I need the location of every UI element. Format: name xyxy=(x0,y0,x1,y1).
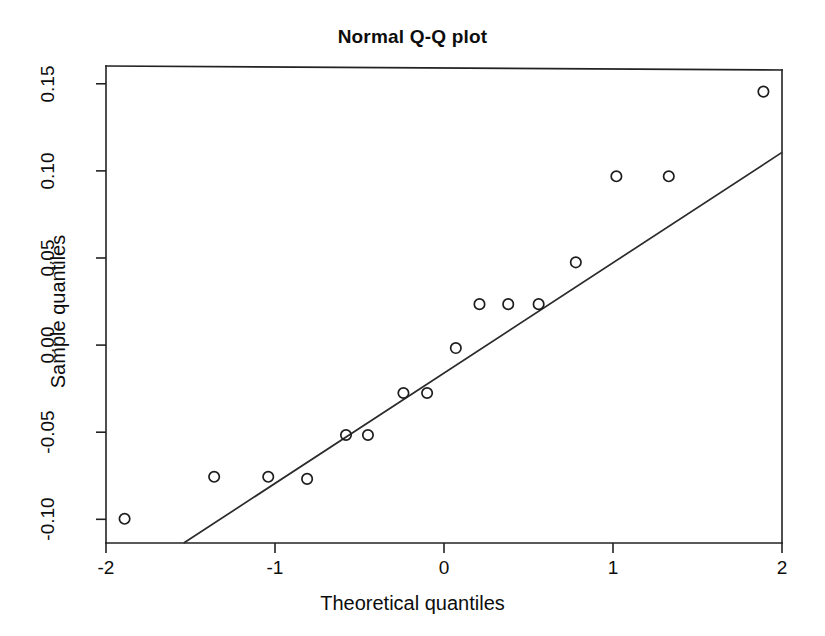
data-point-marker xyxy=(611,171,621,181)
data-point-marker xyxy=(451,343,461,353)
y-tick-label: -0.10 xyxy=(37,479,59,559)
y-axis-ticks xyxy=(96,84,106,520)
qq-reference-line xyxy=(184,152,782,543)
qq-plot-figure: Normal Q-Q plot Theoretical quantiles Sa… xyxy=(0,0,825,636)
data-points xyxy=(119,86,768,524)
y-tick-label: -0.05 xyxy=(37,392,59,472)
data-point-marker xyxy=(664,171,674,181)
x-tick-label: 0 xyxy=(439,557,450,579)
data-point-marker xyxy=(571,257,581,267)
y-tick-label: 0.05 xyxy=(37,218,59,298)
data-point-marker xyxy=(398,388,408,398)
data-point-marker xyxy=(758,86,768,96)
data-point-marker xyxy=(533,299,543,309)
data-point-marker xyxy=(503,299,513,309)
x-tick-label: -1 xyxy=(267,557,284,579)
reference-line xyxy=(184,152,782,543)
data-point-marker xyxy=(119,514,129,524)
plot-canvas xyxy=(0,0,825,636)
data-point-marker xyxy=(209,472,219,482)
data-point-marker xyxy=(302,474,312,484)
y-tick-label: 0.10 xyxy=(37,131,59,211)
frame-top xyxy=(106,66,782,70)
data-point-marker xyxy=(363,430,373,440)
plot-frame xyxy=(106,66,782,543)
x-tick-label: -2 xyxy=(98,557,115,579)
data-point-marker xyxy=(474,299,484,309)
y-tick-label: 0.00 xyxy=(37,305,59,385)
y-tick-label: 0.15 xyxy=(37,44,59,124)
x-tick-label: 2 xyxy=(777,557,788,579)
x-axis-ticks xyxy=(106,543,782,553)
x-tick-label: 1 xyxy=(608,557,619,579)
data-point-marker xyxy=(422,388,432,398)
data-point-marker xyxy=(263,472,273,482)
